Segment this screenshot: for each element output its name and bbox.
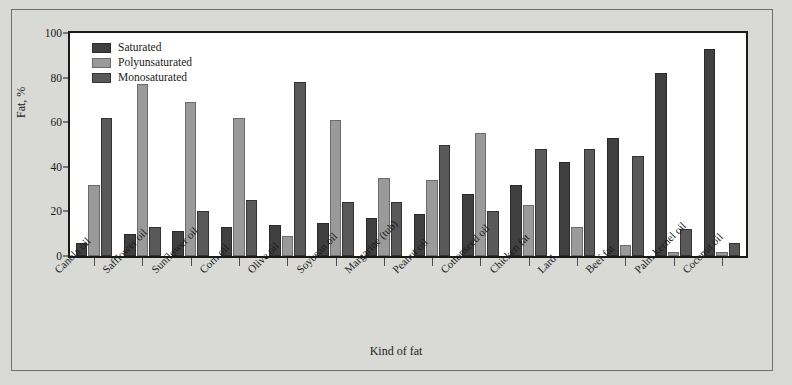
x-tick-mark bbox=[94, 258, 95, 266]
bar-mono bbox=[632, 156, 644, 256]
legend-swatch-icon bbox=[92, 58, 111, 68]
legend-label: Monosaturated bbox=[118, 72, 187, 84]
bar-mono bbox=[342, 202, 354, 256]
legend-item: Monosaturated bbox=[92, 71, 192, 85]
x-tick-mark bbox=[191, 258, 192, 266]
legend-item: Polyunsaturated bbox=[92, 56, 192, 70]
x-tick-mark bbox=[384, 258, 385, 266]
y-axis-title: Fat, % bbox=[14, 87, 29, 118]
bar-mono bbox=[729, 243, 741, 256]
x-axis-category-labels: Canola oilSafflower oilSunflower oilCorn… bbox=[68, 267, 768, 337]
bar-mono bbox=[487, 211, 499, 256]
bar-mono bbox=[584, 149, 596, 256]
bar-mono bbox=[246, 200, 258, 256]
bar-poly bbox=[571, 227, 583, 256]
legend-swatch-icon bbox=[92, 73, 111, 83]
legend-item: Saturated bbox=[92, 41, 192, 55]
bar-sat bbox=[559, 162, 571, 256]
x-tick-mark bbox=[142, 258, 143, 266]
x-tick-mark bbox=[529, 258, 530, 266]
bar-sat bbox=[704, 49, 716, 256]
plot-area: SaturatedPolyunsaturatedMonosaturated bbox=[68, 31, 748, 258]
bar-mono bbox=[101, 118, 113, 256]
y-tick-label: 60 bbox=[51, 116, 63, 128]
legend-swatch-icon bbox=[92, 43, 111, 53]
bar-poly bbox=[716, 252, 728, 256]
bar-poly bbox=[523, 205, 535, 256]
legend-label: Saturated bbox=[118, 42, 161, 54]
x-tick-mark bbox=[432, 258, 433, 266]
x-tick-mark bbox=[722, 258, 723, 266]
x-tick-mark bbox=[239, 258, 240, 266]
chart-figure: Fat, % 020406080100 SaturatedPolyunsatur… bbox=[0, 0, 792, 385]
y-axis-tick-labels: 020406080100 bbox=[36, 31, 62, 258]
bar-mono bbox=[439, 145, 451, 257]
bar-sat bbox=[655, 73, 667, 256]
bar-mono bbox=[294, 82, 306, 256]
bar-mono bbox=[535, 149, 547, 256]
x-tick-mark bbox=[577, 258, 578, 266]
bar-poly bbox=[620, 245, 632, 256]
bar-mono bbox=[149, 227, 161, 256]
y-tick-label: 40 bbox=[51, 161, 63, 173]
x-tick-mark bbox=[287, 258, 288, 266]
bar-poly bbox=[668, 252, 680, 256]
x-tick-mark bbox=[674, 258, 675, 266]
y-tick-label: 100 bbox=[45, 27, 62, 39]
x-tick-mark bbox=[480, 258, 481, 266]
y-tick-label: 80 bbox=[51, 72, 63, 84]
legend-label: Polyunsaturated bbox=[118, 57, 192, 69]
bar-poly bbox=[233, 118, 245, 256]
x-tick-mark bbox=[336, 258, 337, 266]
x-axis-title: Kind of fat bbox=[0, 344, 792, 359]
bar-poly bbox=[282, 236, 294, 256]
y-tick-label: 20 bbox=[51, 205, 63, 217]
chart-legend: SaturatedPolyunsaturatedMonosaturated bbox=[92, 41, 192, 86]
x-tick-mark bbox=[625, 258, 626, 266]
bar-sat bbox=[607, 138, 619, 256]
